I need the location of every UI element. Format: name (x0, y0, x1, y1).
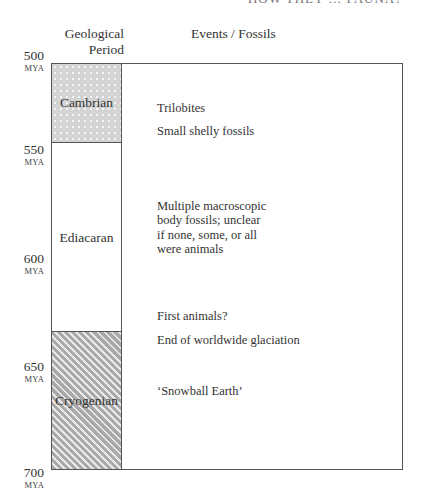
tick-unit: MYA (0, 64, 44, 73)
event-trilobites: Trilobites (157, 101, 205, 115)
event-first-animals: First animals? (157, 309, 227, 323)
tick-unit: MYA (0, 158, 44, 167)
tick-value: 600 (0, 252, 44, 266)
column-header-period-line1: Geological (62, 26, 124, 42)
running-header: HOW THEY … FAUNA? (248, 0, 402, 7)
tick-unit: MYA (0, 375, 44, 384)
event-line: if none, some, or all (157, 228, 266, 242)
axis-tick-700: 700 MYA (0, 466, 44, 489)
event-snowball-earth: ‘Snowball Earth’ (157, 384, 243, 398)
tick-value: 650 (0, 360, 44, 374)
column-header-events: Events / Fossils (191, 26, 276, 42)
column-header-period: Geological Period (62, 26, 124, 58)
event-line: were animals (157, 242, 266, 256)
event-small-shelly-fossils: Small shelly fossils (157, 124, 254, 138)
tick-value: 700 (0, 466, 44, 480)
event-line: body fossils; unclear (157, 213, 266, 227)
event-end-of-glaciation: End of worldwide glaciation (157, 333, 300, 347)
column-header-period-line2: Period (62, 42, 124, 58)
tick-unit: MYA (0, 267, 44, 276)
axis-tick-650: 650 MYA (0, 360, 44, 383)
tick-value: 550 (0, 143, 44, 157)
axis-tick-600: 600 MYA (0, 252, 44, 275)
axis-tick-550: 550 MYA (0, 143, 44, 166)
column-divider (121, 63, 122, 470)
axis-tick-500: 500 MYA (0, 49, 44, 72)
event-line: Multiple macroscopic (157, 199, 266, 213)
tick-value: 500 (0, 49, 44, 63)
event-macroscopic-body-fossils: Multiple macroscopic body fossils; uncle… (157, 199, 266, 256)
tick-unit: MYA (0, 481, 44, 490)
